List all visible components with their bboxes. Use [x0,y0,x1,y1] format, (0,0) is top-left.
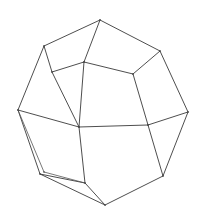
polyhedron-wireframe-svg [0,0,203,216]
wireframe-vertex [39,173,40,174]
wireframe-vertex [78,126,79,127]
wireframe-vertex [83,61,84,62]
wireframe-vertex [159,50,160,51]
wireframe-vertex [104,204,105,205]
wireframe-vertex [162,175,163,176]
wireframe-vertex [99,19,100,20]
wireframe-vertex [43,171,44,172]
wireframe-vertex [43,45,44,46]
wireframe-vertex [187,111,188,112]
wireframe-vertex [132,73,133,74]
wireframe-vertex [17,109,18,110]
wireframe-vertex [84,182,85,183]
wireframe-vertex [51,71,52,72]
figure-background [0,0,203,216]
polyhedron-figure-canvas [0,0,203,216]
wireframe-vertex [147,124,148,125]
